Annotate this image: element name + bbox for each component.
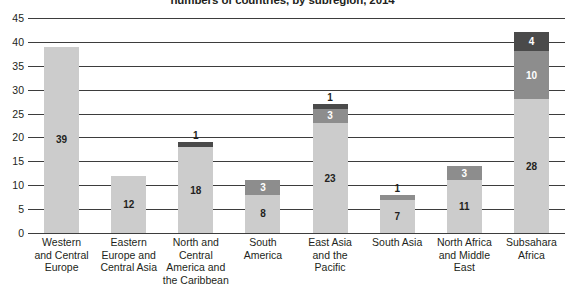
bar-group[interactable]: 311: [447, 18, 482, 233]
bar-segment[interactable]: 4: [514, 32, 549, 51]
bar-segment[interactable]: 39: [44, 47, 79, 233]
bar-value-label: 10: [514, 70, 549, 81]
x-axis-category-label-line: America and: [162, 261, 229, 274]
x-axis-category-label-line: East: [431, 261, 498, 274]
y-axis-tick-label: 30: [2, 85, 24, 95]
bar-stack: 39: [44, 47, 79, 233]
bar-segment[interactable]: 23: [313, 123, 348, 233]
bar-stack: 38: [245, 180, 280, 233]
bar-segment[interactable]: 12: [111, 176, 146, 233]
bar-segment[interactable]: 7: [380, 200, 415, 233]
bar-segment[interactable]: 18: [178, 147, 213, 233]
bar-stack: 311: [447, 166, 482, 233]
y-axis-tick-label: 15: [2, 156, 24, 166]
bar-group[interactable]: 38: [245, 18, 280, 233]
bar-value-label: 23: [313, 173, 348, 184]
bar-value-label: 39: [44, 134, 79, 145]
x-axis-category-label-line: Pacific: [297, 261, 364, 274]
bar-segment[interactable]: 3: [313, 109, 348, 123]
x-axis-category-label-line: Subsahara: [498, 236, 565, 249]
y-axis-tick-label: 35: [2, 61, 24, 71]
x-axis-category-label: North andCentralAmerica andthe Caribbean: [162, 236, 229, 286]
x-axis: Westernand CentralEuropeEasternEurope an…: [28, 236, 565, 292]
bar-value-label: 28: [514, 161, 549, 172]
bar-value-label: 18: [178, 185, 213, 196]
bar-value-label: 12: [111, 199, 146, 210]
x-axis-category-label-line: the Caribbean: [162, 274, 229, 287]
x-axis-category-label-line: Eastern: [95, 236, 162, 249]
bar-value-label-outside: 1: [178, 130, 213, 141]
y-axis-tick-label: 25: [2, 109, 24, 119]
x-axis-category-label-line: Western: [28, 236, 95, 249]
y-axis-tick-label: 20: [2, 132, 24, 142]
bar-value-label: 4: [514, 36, 549, 47]
bar-value-label-outside: 1: [380, 183, 415, 194]
bar-value-label: 3: [245, 182, 280, 193]
bar-stack: 7: [380, 195, 415, 233]
bar-chart: numbers of countries, by subregion, 2014…: [0, 0, 565, 292]
bar-group[interactable]: 181: [178, 18, 213, 233]
bar-value-label: 8: [245, 208, 280, 219]
bar-value-label: 3: [313, 110, 348, 121]
bar-segment[interactable]: 8: [245, 195, 280, 233]
bar-segment[interactable]: 3: [447, 166, 482, 180]
x-axis-category-label-line: Central: [162, 249, 229, 262]
y-axis-tick-label: 10: [2, 180, 24, 190]
x-axis-category-label-line: Central Asia: [95, 261, 162, 274]
bar-segment[interactable]: 11: [447, 180, 482, 233]
x-axis-category-label-line: Europe and: [95, 249, 162, 262]
y-axis-tick-label: 45: [2, 13, 24, 23]
bar-value-label: 7: [380, 211, 415, 222]
x-axis-category-label-line: and Middle: [431, 249, 498, 262]
x-axis-category-label: North Africaand MiddleEast: [431, 236, 498, 274]
bar-stack: 18: [178, 142, 213, 233]
bar-group[interactable]: 3231: [313, 18, 348, 233]
bar-value-label: 3: [447, 168, 482, 179]
x-axis-category-label-line: East Asia: [297, 236, 364, 249]
bar-value-label-outside: 1: [313, 92, 348, 103]
bar-group[interactable]: 39: [44, 18, 79, 233]
x-axis-category-label: East Asiaand thePacific: [297, 236, 364, 274]
y-axis-tick-label: 0: [2, 228, 24, 238]
x-axis-category-label-line: South Asia: [364, 236, 431, 249]
x-axis-category-label-line: South: [229, 236, 296, 249]
bar-group[interactable]: 12: [111, 18, 146, 233]
y-axis: 454035302520151050: [0, 18, 24, 233]
x-axis-category-label: Westernand CentralEurope: [28, 236, 95, 274]
x-axis-category-label-line: Europe: [28, 261, 95, 274]
chart-title: numbers of countries, by subregion, 2014: [0, 0, 565, 8]
bar-group[interactable]: 71: [380, 18, 415, 233]
y-axis-tick-label: 40: [2, 37, 24, 47]
x-axis-category-label-line: and Central: [28, 249, 95, 262]
bar-segment[interactable]: 10: [514, 51, 549, 99]
x-axis-category-label: SouthAmerica: [229, 236, 296, 261]
x-axis-category-label: South Asia: [364, 236, 431, 249]
bar-segment[interactable]: 28: [514, 99, 549, 233]
x-axis-category-label-line: North Africa: [431, 236, 498, 249]
bar-group[interactable]: 41028: [514, 18, 549, 233]
bar-stack: 323: [313, 104, 348, 233]
x-axis-category-label-line: and the: [297, 249, 364, 262]
y-axis-tick-label: 5: [2, 204, 24, 214]
x-axis-category-label-line: America: [229, 249, 296, 262]
axis-baseline: [28, 233, 565, 234]
bar-value-label: 11: [447, 201, 482, 212]
bar-stack: 41028: [514, 32, 549, 233]
x-axis-category-label-line: North and: [162, 236, 229, 249]
bars-layer: 39121813832317131141028: [28, 18, 565, 233]
bar-segment[interactable]: 3: [245, 180, 280, 194]
x-axis-category-label: EasternEurope andCentral Asia: [95, 236, 162, 274]
bar-stack: 12: [111, 176, 146, 233]
x-axis-category-label-line: Africa: [498, 249, 565, 262]
x-axis-category-label: SubsaharaAfrica: [498, 236, 565, 261]
